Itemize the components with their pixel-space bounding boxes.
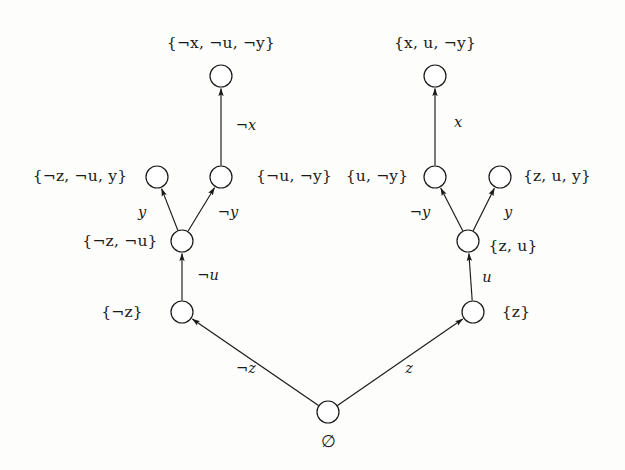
edge-label: ¬y bbox=[410, 205, 430, 220]
tree-node-notx_notu_noty[interactable] bbox=[210, 65, 232, 87]
edge-label: u bbox=[482, 270, 491, 285]
node-label-x_u_noty: {x, u, ¬y} bbox=[394, 36, 476, 52]
tree-node-u_noty[interactable] bbox=[424, 166, 446, 188]
edge-label: ¬x bbox=[236, 118, 256, 133]
edge-label: ¬y bbox=[218, 205, 238, 220]
tree-node-notz_notu[interactable] bbox=[171, 230, 193, 252]
node-label-z_u: {z, u} bbox=[489, 239, 538, 255]
tree-node-notz_notu_y[interactable] bbox=[146, 166, 168, 188]
node-label-notz: {¬z} bbox=[101, 305, 143, 321]
tree-node-notu_noty[interactable] bbox=[210, 166, 232, 188]
node-label-z: {z} bbox=[502, 305, 531, 321]
node-label-notx_notu_noty: {¬x, ¬u, ¬y} bbox=[167, 36, 275, 52]
tree-edge bbox=[337, 319, 462, 405]
tree-node-z[interactable] bbox=[462, 301, 484, 323]
edge-label: x bbox=[454, 115, 462, 130]
tree-node-z_u[interactable] bbox=[457, 230, 479, 252]
edge-label: ¬u bbox=[197, 268, 219, 283]
node-label-notu_noty: {¬u, ¬y} bbox=[256, 169, 332, 185]
node-label-u_noty: {u, ¬y} bbox=[346, 169, 409, 185]
edge-label: y bbox=[504, 205, 512, 220]
tree-edge bbox=[162, 189, 178, 231]
tree-node-notz[interactable] bbox=[171, 301, 193, 323]
tree-node-z_u_y[interactable] bbox=[489, 166, 511, 188]
edge-label: z bbox=[405, 361, 413, 376]
tree-node-x_u_noty[interactable] bbox=[424, 65, 446, 87]
diagram-canvas: ¬zz¬uuy¬y¬yy¬xx∅{¬z}{z}{¬z, ¬u}{z, u}{¬z… bbox=[0, 0, 625, 470]
tree-edge bbox=[473, 188, 494, 231]
edge-label: ¬z bbox=[236, 361, 256, 376]
tree-edge bbox=[469, 253, 472, 300]
edges-layer bbox=[162, 89, 495, 406]
edge-label: y bbox=[138, 205, 146, 220]
node-label-root: ∅ bbox=[321, 433, 336, 450]
node-label-notz_notu_y: {¬z, ¬u, y} bbox=[33, 169, 128, 185]
tree-edge bbox=[188, 188, 215, 232]
tree-edge bbox=[441, 188, 463, 231]
tree-node-root[interactable] bbox=[317, 401, 339, 423]
node-label-notz_notu: {¬z, ¬u} bbox=[82, 234, 157, 250]
node-label-z_u_y: {z, u, y} bbox=[523, 169, 591, 185]
